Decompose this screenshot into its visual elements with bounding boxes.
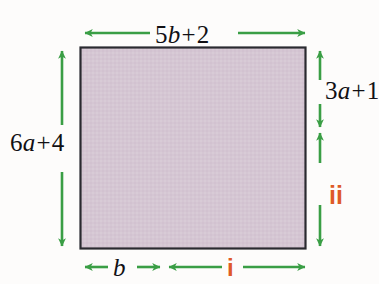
top-operator: + bbox=[180, 21, 196, 48]
right-upper-variable: a bbox=[338, 77, 351, 104]
left-dimension-label: 6a+4 bbox=[10, 130, 64, 155]
top-dimension-label: 5b+2 bbox=[155, 22, 209, 47]
left-constant: 4 bbox=[52, 129, 65, 156]
top-variable: b bbox=[168, 21, 181, 48]
right-upper-constant: 1 bbox=[367, 77, 379, 104]
right-upper-coefficient: 3 bbox=[325, 77, 338, 104]
right-upper-dimension-label: 3a+1 bbox=[325, 78, 379, 103]
right-lower-marker-label: ii bbox=[329, 183, 343, 208]
top-coefficient: 5 bbox=[155, 21, 168, 48]
bottom-right-marker-label: i bbox=[227, 256, 234, 280]
left-variable: a bbox=[23, 129, 36, 156]
right-upper-operator: + bbox=[350, 77, 366, 104]
left-coefficient: 6 bbox=[10, 129, 23, 156]
bottom-left-dimension-label: b bbox=[113, 255, 126, 280]
rectangle-shape bbox=[81, 48, 306, 249]
left-operator: + bbox=[35, 129, 51, 156]
top-constant: 2 bbox=[197, 21, 210, 48]
bottom-left-variable: b bbox=[113, 254, 126, 281]
